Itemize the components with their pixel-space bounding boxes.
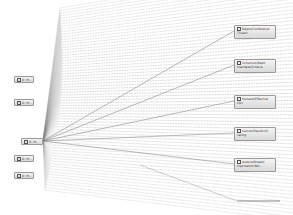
edge <box>55 140 293 151</box>
right-node[interactable]: Humant/Effective tion <box>234 95 276 109</box>
node-label: D. Hi... <box>22 101 32 105</box>
edge <box>59 114 293 115</box>
edge <box>61 0 293 19</box>
node-label: Audure/Breakt/ mportation/Nor... <box>237 160 265 168</box>
node-label: D. Hi... <box>22 157 32 161</box>
edge <box>49 172 293 195</box>
edge <box>62 39 293 58</box>
node-label: Reject/Conference Tilsiam <box>237 27 269 35</box>
edge <box>50 169 293 191</box>
edge <box>54 145 293 158</box>
edge <box>58 121 293 125</box>
class-icon <box>17 78 21 82</box>
node-label: D. Hi... <box>22 174 32 178</box>
class-icon <box>17 157 21 161</box>
right-node[interactable]: Reject/Conference Tilsiam <box>234 25 276 39</box>
left-node[interactable]: D. Hi... <box>14 155 34 162</box>
right-node[interactable]: Construct/Redit mandate/Criteria <box>234 59 276 73</box>
edge <box>140 165 237 201</box>
node-label: D. Hi... <box>29 140 39 144</box>
edge <box>45 190 293 215</box>
class-icon <box>24 140 28 144</box>
node-label: Humant/Effective tion <box>237 97 268 105</box>
class-icon <box>17 174 21 178</box>
left-node[interactable]: D. Hi... <box>14 172 34 179</box>
right-node[interactable]: Cancel/Plan/Archi valing <box>234 127 276 141</box>
edge <box>48 174 293 198</box>
class-icon <box>17 101 21 105</box>
node-label: Construct/Redit mandate/Criteria <box>237 61 265 69</box>
edge <box>43 31 234 141</box>
right-node[interactable]: Audure/Breakt/ mportation/Nor... <box>234 158 276 172</box>
edge <box>60 0 293 13</box>
left-node[interactable]: D. Hi... <box>14 99 34 106</box>
edge <box>61 86 293 92</box>
edge <box>60 0 293 8</box>
edge <box>43 141 234 164</box>
edge <box>47 179 293 205</box>
node-label: Cancel/Plan/Archi valing <box>237 129 268 137</box>
edge <box>58 119 293 122</box>
edge <box>59 116 293 118</box>
edge <box>43 133 234 141</box>
hub-node[interactable]: D. Hi... <box>21 138 43 145</box>
left-node[interactable]: D. Hi... <box>14 76 34 83</box>
node-label: D. Hi... <box>22 78 32 82</box>
edge <box>46 185 293 213</box>
